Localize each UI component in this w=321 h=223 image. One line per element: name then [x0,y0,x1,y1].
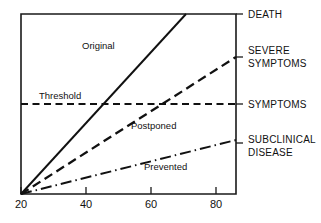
chart-figure: 20 40 60 80 DEATH SEVERE SYMPTOMS SYMPTO… [0,0,321,223]
severity-label-disease: DISEASE [248,147,293,158]
morbidity-compression-line-chart: 20 40 60 80 DEATH SEVERE SYMPTOMS SYMPTO… [0,0,321,223]
x-tick-label-40: 40 [80,198,92,210]
x-tick-label-60: 60 [145,198,157,210]
severity-axis-labels: DEATH SEVERE SYMPTOMS SYMPTOMS SUBCLINIC… [248,9,316,158]
x-axis-ticks [21,187,216,194]
x-tick-label-80: 80 [210,198,222,210]
series-line-prevented [21,140,236,194]
severity-label-severe: SEVERE [248,45,290,56]
severity-label-death: DEATH [248,9,282,20]
severity-label-subclinical: SUBCLINICAL [248,134,316,145]
annotation-prevented: Prevented [144,161,187,172]
severity-axis-ticks [236,14,243,143]
annotation-threshold: Threshold [39,90,81,101]
x-axis-tick-labels: 20 40 60 80 [15,198,222,210]
severity-label-symptoms: SYMPTOMS [248,99,307,110]
series-annotations: Original Threshold Postponed Prevented [39,40,187,172]
severity-label-severe-symptoms: SYMPTOMS [248,58,307,69]
annotation-original: Original [82,40,115,51]
x-tick-label-20: 20 [15,198,27,210]
annotation-postponed: Postponed [131,120,176,131]
